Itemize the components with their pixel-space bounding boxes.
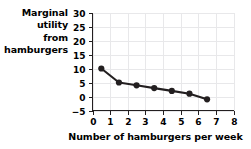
x-tick-label: 7 <box>213 117 219 127</box>
data-point-marker <box>133 82 139 88</box>
y-tick-label: 20 <box>73 37 86 47</box>
data-point-marker <box>204 96 210 102</box>
chart-figure: Marginal utility from hamburgers −505101… <box>0 0 251 149</box>
y-tick-label: 5 <box>79 79 85 89</box>
x-tick-label: 5 <box>178 117 184 127</box>
x-tick-label: 0 <box>90 117 96 127</box>
grid-lines <box>93 13 235 112</box>
y-tick-label: 25 <box>73 23 86 33</box>
y-tick-label: −5 <box>72 107 86 117</box>
y-tick-label: 0 <box>79 93 85 103</box>
y-axis-ticks: −5051015202530 <box>72 9 93 117</box>
y-tick-label: 30 <box>73 9 86 19</box>
data-point-marker <box>98 65 104 71</box>
data-point-marker <box>169 88 175 94</box>
x-tick-label: 3 <box>142 117 148 127</box>
y-tick-label: 15 <box>73 51 86 61</box>
x-axis-ticks: 012345678 <box>90 111 237 127</box>
x-tick-label: 2 <box>125 117 131 127</box>
x-tick-label: 1 <box>107 117 113 127</box>
data-point-marker <box>116 79 122 85</box>
x-tick-label: 4 <box>160 117 166 127</box>
data-point-marker <box>151 85 157 91</box>
chart-plot-area: −5051015202530 012345678 <box>0 0 251 149</box>
data-point-marker <box>186 91 192 97</box>
x-tick-label: 6 <box>195 117 201 127</box>
y-tick-label: 10 <box>73 65 86 75</box>
x-axis-title: Number of hamburgers per week <box>60 131 251 142</box>
x-tick-label: 8 <box>231 117 237 127</box>
